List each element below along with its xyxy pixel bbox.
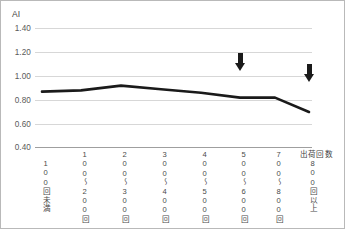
x-tick-label: 800回以上 [302,150,316,222]
y-tick-label: 1.00 [15,72,31,81]
y-tick-label: 0.80 [15,96,31,105]
annotation-arrow-2 [303,64,315,82]
x-axis-labels: 100回未満 100～200回 200～300回 300～400回 400～50… [35,150,312,224]
x-tick-label: 100～200回 [74,150,88,222]
y-tick-label: 0.60 [15,120,31,129]
y-tick-label: 1.20 [15,48,31,57]
y-axis-title: AI [12,9,20,19]
x-tick-label: 100回未満 [35,150,49,222]
x-axis-title: 出荷回数 [300,148,333,159]
x-tick-label: 300～400回 [154,150,168,222]
x-tick-label: 700～800回 [268,150,282,222]
series-line-ai [42,86,309,112]
x-tick-label: 200～300回 [114,150,128,222]
x-tick-label: 500～600回 [233,150,247,222]
annotation-arrow-1 [234,53,246,71]
x-tick-label: 400～500回 [194,150,208,222]
plot-area: 1.40 1.20 1.00 0.80 0.60 0.40 [35,28,312,148]
series-canvas [35,28,312,148]
y-tick-label: 0.40 [15,143,31,152]
y-tick-label: 1.40 [15,24,31,33]
chart-figure: AI 1.40 1.20 1.00 0.80 0.60 0.40 [0,0,345,229]
